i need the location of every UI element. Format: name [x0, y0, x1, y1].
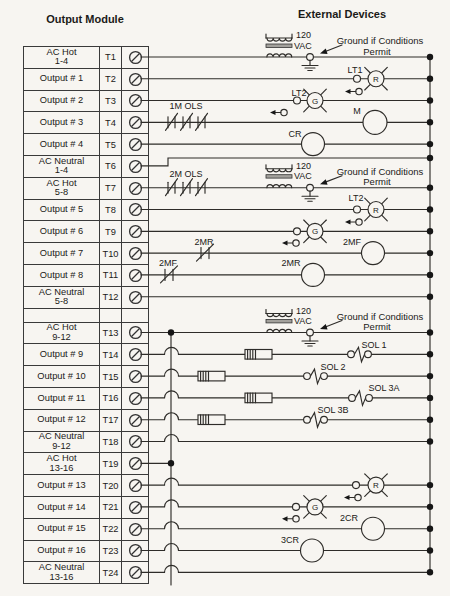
contact-2mr-label: 2MR [194, 237, 214, 247]
terminal-id: T4 [100, 112, 122, 133]
lt2-label: LT2 [349, 193, 364, 203]
coil-icon [198, 371, 225, 381]
voltage-label: VAC [294, 316, 312, 326]
wire-t6 [141, 158, 430, 166]
lamp-return-arrow-icon [282, 240, 299, 246]
pilot-light-red-icon [365, 474, 388, 497]
terminal-label: Output # 1 [40, 74, 83, 84]
terminal-id: T12 [100, 287, 122, 308]
ols1-label: 1M OLS [169, 101, 202, 111]
terminal-label: Output # 16 [37, 546, 86, 556]
table-row: AC Hot 5-8 T7 [24, 178, 148, 200]
solenoid-icon [304, 413, 328, 428]
junction-dot [427, 155, 433, 161]
transformer-icon [266, 310, 292, 333]
table-row: Output # 3 T4 [24, 112, 148, 134]
terminal-label-cell: Output # 1 [24, 69, 100, 90]
lamp-terminal-icon [293, 503, 300, 510]
screw-terminal-icon [128, 290, 143, 305]
junction-dot [427, 294, 433, 300]
terminal-id: T3 [100, 91, 122, 112]
terminal-label-cell: AC Neutral 9-12 [24, 432, 100, 453]
ground-note-arrow-icon [320, 321, 342, 330]
table-row: AC Hot 13-16 T19 [24, 453, 148, 475]
junction-dot [427, 141, 433, 147]
coil-2mf-label: 2MF [343, 237, 362, 247]
ground-note: Permit [363, 46, 391, 57]
terminal-label-cell: AC Neutral 13-16 [24, 562, 100, 583]
section-3-devices: 120 VAC Ground if Conditions Permit SOL … [198, 306, 424, 428]
table-row: Output # 16 T23 [24, 541, 148, 563]
terminal-id: T22 [100, 519, 122, 540]
terminal-label-cell: Output # 8 [24, 265, 100, 286]
wire-t18 [141, 435, 430, 442]
wire-t22 [141, 522, 430, 529]
pilot-light-green-icon [304, 89, 327, 112]
transformer-icon [266, 34, 292, 57]
terminal-label-sub: 5-8 [55, 297, 68, 307]
terminal-label-sub: 9-12 [52, 442, 71, 452]
terminal-id: T5 [100, 134, 122, 155]
terminal-label-cell: Output # 5 [24, 200, 100, 221]
table-row: AC Neutral 9-12 T18 [24, 432, 148, 454]
section-4-devices: R G 2CR 3CR [281, 474, 387, 562]
screw-terminal-icon [128, 137, 143, 152]
lamp-terminal-icon [354, 75, 361, 82]
lamp-letter: R [373, 75, 379, 84]
table-row: Output # 12 T17 [24, 410, 148, 432]
section-2-devices: 2M OLS 120 VAC Ground if Conditions Perm… [159, 161, 424, 287]
voltage-label: VAC [294, 171, 312, 181]
junction-dot [427, 526, 433, 532]
table-row: AC Hot 1-4 T1 [24, 47, 148, 69]
terminal-label: Output # 8 [40, 271, 83, 281]
lamp-terminal-icon [294, 228, 301, 235]
screw-terminal-icon [128, 72, 143, 87]
motor-m-coil [363, 110, 387, 134]
terminal-label-cell: Output # 11 [24, 388, 100, 409]
terminal-label-cell: AC Hot 13-16 [24, 453, 100, 474]
voltage-label: 120 [296, 161, 311, 171]
screw-terminal-icon [128, 268, 143, 283]
terminal-label: Output # 12 [37, 415, 86, 425]
junction-dot [168, 329, 174, 335]
terminal-label-sub: 1-4 [55, 166, 68, 176]
row-wires [141, 57, 430, 585]
terminal-id: T1 [100, 47, 122, 68]
junction-dot [168, 460, 174, 466]
motor-2mr-coil [302, 263, 325, 286]
screw-terminal-icon [128, 246, 143, 261]
wire-t15 [141, 369, 430, 376]
wire-t21 [141, 500, 430, 507]
terminal-label-cell: Output # 10 [24, 366, 100, 387]
terminal-label-cell: AC Neutral 1-4 [24, 156, 100, 177]
table-row: Output # 11 T16 [24, 388, 148, 410]
cr-relay-coil [302, 133, 325, 156]
terminal-id: T19 [100, 453, 122, 474]
lamp-return-arrow-icon [345, 219, 362, 225]
terminal-label: Output # 14 [37, 503, 86, 513]
relay-2cr-coil [362, 517, 385, 540]
lamp-return-arrow-icon [344, 494, 361, 500]
pilot-light-green-icon [304, 220, 327, 243]
table-row: Output # 8 T11 [24, 265, 148, 287]
wire-t23 [141, 544, 430, 551]
terminal-label-cell: Output # 2 [24, 91, 100, 112]
junction-dot [427, 547, 433, 553]
screw-terminal-icon [128, 522, 143, 537]
table-row: Output # 13 T20 [24, 475, 148, 497]
sol3a-label: SOL 3A [368, 383, 399, 393]
terminal-label-sub: 5-8 [55, 188, 68, 198]
sol1-label: SOL 1 [361, 340, 386, 350]
screw-terminal-icon [128, 50, 143, 65]
voltage-label: 120 [296, 30, 311, 40]
terminal-label-sub: 13-16 [50, 573, 74, 583]
junction-dot [427, 228, 433, 234]
terminal-label: Output # 2 [40, 96, 83, 106]
voltage-label: 120 [296, 306, 311, 316]
screw-terminal-icon [128, 202, 143, 217]
junction-dot [427, 417, 433, 423]
terminal-id [100, 309, 122, 322]
coil-2mr-label: 2MR [281, 258, 301, 268]
terminal-id: T21 [100, 497, 122, 518]
ground-icon [302, 329, 318, 346]
